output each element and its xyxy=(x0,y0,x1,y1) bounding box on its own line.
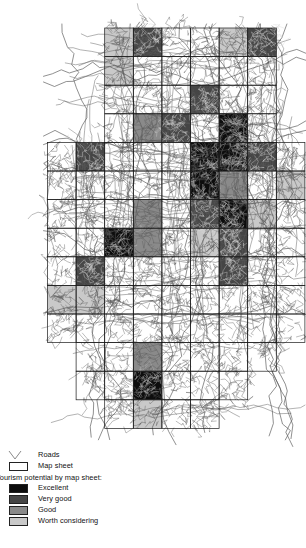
map-sheet-cell xyxy=(105,343,134,372)
map-panel xyxy=(0,0,306,448)
legend-label-class: Excellent xyxy=(38,482,68,493)
tourism-potential-figure: Roads Map sheet Tourism potential by map… xyxy=(0,0,306,548)
road-segment xyxy=(82,399,87,415)
map-legend: Roads Map sheet Tourism potential by map… xyxy=(0,450,306,540)
class-swatch-icon xyxy=(8,494,30,504)
class-swatch-icon xyxy=(8,505,30,515)
map-sheet-cell xyxy=(219,57,248,86)
road-segment xyxy=(166,17,172,30)
legend-label-class: Worth considering xyxy=(38,515,98,526)
legend-label-map-sheet: Map sheet xyxy=(38,460,73,471)
class-swatch-icon xyxy=(8,516,30,526)
class-swatch-icon xyxy=(8,483,30,493)
road-segment xyxy=(171,428,174,437)
road-segment xyxy=(39,195,48,209)
road-segment xyxy=(28,212,48,219)
map-sheet-icon xyxy=(8,461,30,471)
legend-label-class: Very good xyxy=(38,493,72,504)
legend-label-class: Good xyxy=(38,504,56,515)
map-graphic xyxy=(0,0,306,448)
legend-label-roads: Roads xyxy=(38,449,60,460)
roads-icon xyxy=(8,450,30,460)
